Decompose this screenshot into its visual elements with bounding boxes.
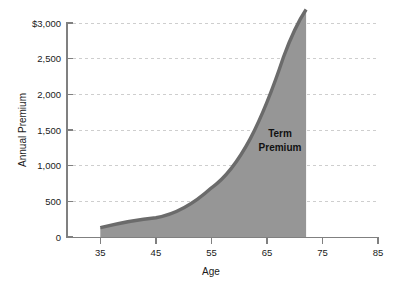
term-premium-annotation-line2: Premium [259, 142, 302, 153]
x-tick-label-75: 75 [317, 247, 328, 258]
y-tick-label-1500: 1,500 [37, 125, 61, 136]
y-tick-label-500: 500 [45, 196, 61, 207]
x-tick-label-85: 85 [373, 247, 384, 258]
chart-container: $3,000 2,500 2,000 1,500 1,000 500 0 35 … [0, 0, 402, 284]
term-premium-series [100, 10, 306, 238]
y-tick-label-1000: 1,000 [37, 160, 61, 171]
y-tick-label-0: 0 [56, 232, 61, 243]
y-axis-ticks [67, 23, 73, 237]
y-tick-label-3000: $3,000 [32, 18, 61, 29]
x-tick-label-45: 45 [151, 247, 162, 258]
x-tick-label-55: 55 [206, 247, 217, 258]
x-axis-tick-labels: 35 45 55 65 75 85 [95, 247, 383, 258]
x-axis-title: Age [202, 266, 220, 277]
y-tick-label-2000: 2,000 [37, 89, 61, 100]
term-premium-area [100, 10, 306, 238]
x-tick-label-35: 35 [95, 247, 106, 258]
x-tick-label-65: 65 [262, 247, 273, 258]
y-axis-tick-labels: $3,000 2,500 2,000 1,500 1,000 500 0 [32, 18, 61, 243]
y-axis-title: Annual Premium [17, 93, 28, 167]
gridlines [67, 23, 378, 201]
y-tick-label-2500: 2,500 [37, 53, 61, 64]
area-chart-plot: $3,000 2,500 2,000 1,500 1,000 500 0 35 … [0, 0, 402, 284]
x-axis-ticks [100, 237, 378, 243]
term-premium-annotation-line1: Term [268, 128, 292, 139]
